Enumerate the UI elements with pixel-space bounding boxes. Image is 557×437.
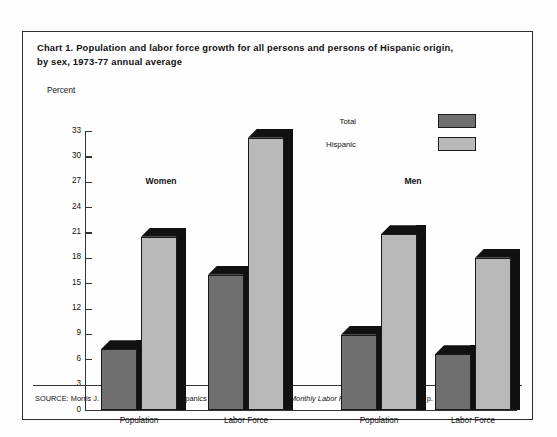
legend-label-hispanic: Hispanic — [326, 140, 356, 149]
y-tick-mark-0 — [85, 410, 92, 411]
bar-women-population-total — [101, 349, 137, 410]
y-axis-line — [85, 131, 86, 411]
bar-men-population-total — [341, 335, 377, 410]
y-tick-mark-6 — [85, 359, 92, 360]
y-tick-label-21: 21 — [55, 227, 81, 236]
y-tick-label-18: 18 — [55, 252, 81, 261]
y-tick-label-30: 30 — [55, 151, 81, 160]
legend-swatch-hispanic — [438, 137, 476, 151]
category-label-women-labor-force: Labor Force — [200, 416, 292, 425]
y-tick-label-0: 0 — [55, 405, 81, 414]
chart-title-line-2: by sex, 1973-77 annual average — [37, 55, 517, 69]
y-tick-9: 9 — [53, 334, 93, 335]
y-tick-label-9: 9 — [55, 328, 81, 337]
y-tick-21: 21 — [53, 232, 93, 233]
chart-frame: Chart 1. Population and labor force grow… — [22, 31, 533, 420]
y-tick-30: 30 — [53, 156, 93, 157]
y-tick-12: 12 — [53, 309, 93, 310]
chart-title-line-1: Chart 1. Population and labor force grow… — [37, 41, 517, 55]
y-tick-mark-33 — [85, 131, 92, 132]
bar-men-population-hispanic — [381, 234, 417, 410]
category-label-men-population: Population — [333, 416, 425, 425]
bar-women-labor-force-hispanic — [248, 138, 284, 410]
bar-men-labor-force-total — [435, 354, 471, 410]
legend-swatch-total — [438, 114, 476, 128]
chart-page: Chart 1. Population and labor force grow… — [0, 0, 557, 437]
y-tick-mark-15 — [85, 283, 92, 284]
chart-title: Chart 1. Population and labor force grow… — [37, 41, 517, 69]
y-tick-15: 15 — [53, 283, 93, 284]
bar-women-population-hispanic — [141, 237, 177, 410]
bar-women-labor-force-total — [208, 275, 244, 410]
bar-side-face — [510, 249, 520, 410]
group-label-men: Men — [353, 176, 473, 186]
group-label-women: Women — [101, 176, 221, 186]
y-tick-mark-12 — [85, 309, 92, 310]
y-tick-33: 33 — [53, 131, 93, 132]
y-tick-mark-18 — [85, 258, 92, 259]
y-tick-mark-24 — [85, 207, 92, 208]
y-tick-label-27: 27 — [55, 176, 81, 185]
y-axis-unit-label: Percent — [47, 86, 75, 95]
bar-men-labor-force-hispanic — [475, 258, 511, 410]
y-tick-27: 27 — [53, 182, 93, 183]
x-axis-line — [85, 410, 517, 411]
y-tick-label-24: 24 — [55, 202, 81, 211]
y-tick-label-33: 33 — [55, 126, 81, 135]
y-tick-label-15: 15 — [55, 278, 81, 287]
y-tick-18: 18 — [53, 258, 93, 259]
y-tick-0: 0 — [53, 410, 93, 411]
bar-side-face — [416, 225, 426, 410]
y-tick-mark-21 — [85, 232, 92, 233]
bar-side-face — [176, 228, 186, 410]
category-label-men-labor-force: Labor Force — [427, 416, 519, 425]
bar-side-face — [283, 129, 293, 410]
y-tick-label-3: 3 — [55, 379, 81, 388]
y-tick-label-6: 6 — [55, 354, 81, 363]
y-tick-mark-30 — [85, 156, 92, 157]
y-tick-6: 6 — [53, 359, 93, 360]
category-label-women-population: Population — [93, 416, 185, 425]
legend-label-total: Total — [340, 117, 356, 126]
y-tick-mark-27 — [85, 182, 92, 183]
y-tick-label-12: 12 — [55, 303, 81, 312]
y-tick-24: 24 — [53, 207, 93, 208]
y-tick-mark-9 — [85, 334, 92, 335]
